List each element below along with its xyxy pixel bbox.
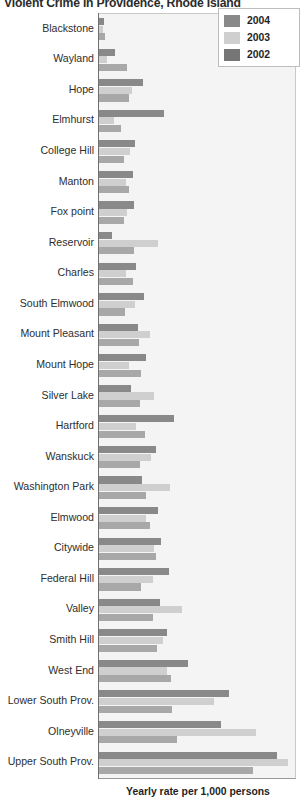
bar-2002 — [99, 64, 127, 71]
bar-2003 — [99, 87, 132, 94]
category-label-smith-hill: Smith Hill — [0, 634, 94, 645]
bar-2004 — [99, 324, 138, 331]
bar-2004 — [99, 232, 112, 239]
category-label-elmwood: Elmwood — [0, 512, 94, 523]
legend-swatch-icon-2004 — [224, 15, 240, 27]
bar-2002 — [99, 94, 129, 101]
bar-2002 — [99, 339, 139, 346]
bar-group — [99, 503, 295, 534]
category-label-elmhurst: Elmhurst — [0, 114, 94, 125]
bar-2002 — [99, 308, 125, 315]
bar-2003 — [99, 484, 170, 491]
category-label-wayland: Wayland — [0, 53, 94, 64]
bar-2002 — [99, 675, 171, 682]
bar-2002 — [99, 278, 133, 285]
legend-item-2003[interactable]: 2003 — [224, 30, 294, 45]
bar-2004 — [99, 385, 131, 392]
bar-2002 — [99, 706, 172, 713]
bar-2004 — [99, 293, 144, 300]
bar-rows — [99, 14, 295, 778]
category-label-wanskuck: Wanskuck — [0, 451, 94, 462]
bar-2003 — [99, 667, 167, 674]
bar-group — [99, 472, 295, 503]
category-label-hartford: Hartford — [0, 420, 94, 431]
category-label-silver-lake: Silver Lake — [0, 390, 94, 401]
bar-2003 — [99, 606, 182, 613]
bar-2004 — [99, 49, 115, 56]
bar-group — [99, 656, 295, 687]
chart-legend: 2004 2003 2002 — [218, 8, 300, 67]
bar-group — [99, 564, 295, 595]
category-axis-labels: BlackstoneWaylandHopeElmhurstCollege Hil… — [0, 13, 94, 779]
bar-2003 — [99, 729, 256, 736]
bar-2004 — [99, 171, 133, 178]
legend-item-2002[interactable]: 2002 — [224, 47, 294, 62]
bar-2004 — [99, 721, 221, 728]
bar-2004 — [99, 415, 174, 422]
bar-group — [99, 350, 295, 381]
bar-2002 — [99, 33, 105, 40]
bar-2003 — [99, 637, 163, 644]
bar-group — [99, 320, 295, 351]
bar-group — [99, 747, 295, 778]
bar-group — [99, 289, 295, 320]
bar-2003 — [99, 423, 136, 430]
bar-2004 — [99, 629, 167, 636]
category-label-upper-south-prov: Upper South Prov. — [0, 756, 94, 767]
category-label-federal-hill: Federal Hill — [0, 573, 94, 584]
bar-group — [99, 258, 295, 289]
bar-2003 — [99, 301, 135, 308]
bar-2003 — [99, 240, 158, 247]
bar-2002 — [99, 583, 141, 590]
legend-swatch-icon-2002 — [224, 49, 240, 61]
legend-label-2004: 2004 — [247, 15, 270, 27]
violent-crime-bar-chart: Violent Crime in Providence, Rhode Islan… — [0, 0, 308, 804]
bar-2002 — [99, 736, 177, 743]
bar-group — [99, 442, 295, 473]
bar-group — [99, 75, 295, 106]
legend-item-2004[interactable]: 2004 — [224, 13, 294, 28]
bar-2003 — [99, 179, 126, 186]
bar-group — [99, 381, 295, 412]
bar-group — [99, 625, 295, 656]
bar-2003 — [99, 362, 129, 369]
bar-2002 — [99, 645, 157, 652]
bar-2002 — [99, 492, 146, 499]
bar-2002 — [99, 217, 124, 224]
bar-2002 — [99, 553, 156, 560]
bar-2003 — [99, 545, 154, 552]
bar-group — [99, 167, 295, 198]
bar-2003 — [99, 209, 127, 216]
bar-group — [99, 197, 295, 228]
plot-area — [98, 13, 296, 779]
category-label-hope: Hope — [0, 84, 94, 95]
bar-2003 — [99, 698, 214, 705]
category-label-washington-park: Washington Park — [0, 481, 94, 492]
bar-group — [99, 228, 295, 259]
bar-2003 — [99, 576, 153, 583]
category-label-valley: Valley — [0, 603, 94, 614]
bar-2002 — [99, 370, 141, 377]
bar-2002 — [99, 186, 129, 193]
bar-2003 — [99, 759, 288, 766]
bar-2002 — [99, 156, 124, 163]
category-label-fox-point: Fox point — [0, 206, 94, 217]
bar-2003 — [99, 331, 150, 338]
bar-group — [99, 411, 295, 442]
bar-2002 — [99, 461, 140, 468]
bar-2004 — [99, 752, 277, 759]
bar-2002 — [99, 400, 140, 407]
category-label-south-elmwood: South Elmwood — [0, 298, 94, 309]
category-label-west-end: West End — [0, 665, 94, 676]
bar-2003 — [99, 392, 154, 399]
legend-swatch-icon-2003 — [224, 32, 240, 44]
bar-2004 — [99, 140, 135, 147]
bar-2004 — [99, 538, 161, 545]
bar-2004 — [99, 263, 136, 270]
category-label-lower-south-prov: Lower South Prov. — [0, 695, 94, 706]
bar-2004 — [99, 446, 156, 453]
category-label-college-hill: College Hill — [0, 145, 94, 156]
category-label-manton: Manton — [0, 176, 94, 187]
bar-2002 — [99, 431, 145, 438]
bar-2004 — [99, 201, 134, 208]
